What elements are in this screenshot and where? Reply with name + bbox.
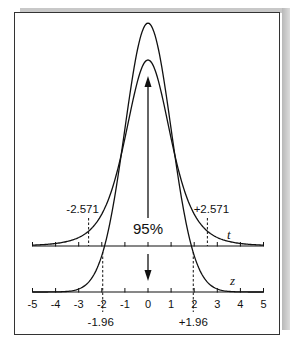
z-tick-label: 0 <box>145 298 151 310</box>
down-arrow-head <box>145 270 152 281</box>
z-axis-name: z <box>229 273 235 288</box>
z-critical-label: -1.96 <box>88 316 114 328</box>
arrows <box>145 76 152 281</box>
z-tick-label: -5 <box>28 298 38 310</box>
z-tick-label: 1 <box>168 298 174 310</box>
up-arrow-head <box>145 76 152 87</box>
z-tick-label: 3 <box>214 298 220 310</box>
distribution-chart: t-2.571+2.571-5-4-3-2-1012345z-1.96+1.96… <box>0 0 295 345</box>
z-tick-label: 5 <box>260 298 266 310</box>
z-critical-label: +1.96 <box>179 316 208 328</box>
z-tick-label: 2 <box>191 298 197 310</box>
z-tick-label: -4 <box>51 298 61 310</box>
z-tick-label: -3 <box>74 298 84 310</box>
t-critical-label: -2.571 <box>66 203 99 215</box>
t-critical-label: +2.571 <box>194 203 230 215</box>
z-tick-label: 4 <box>237 298 243 310</box>
z-tick-label: -1 <box>120 298 130 310</box>
z-tick-label: -2 <box>97 298 107 310</box>
labels: t-2.571+2.571-5-4-3-2-1012345z-1.96+1.96… <box>28 203 267 328</box>
percent-label: 95% <box>133 220 163 237</box>
t-axis-name: t <box>227 227 231 242</box>
